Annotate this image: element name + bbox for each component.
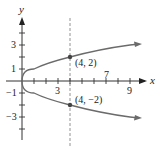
y-tick-label-3: 3 [11, 39, 16, 50]
x-tick-label-3: 3 [55, 85, 60, 96]
point-4-neg2 [68, 103, 72, 107]
y-axis-arrow-icon [19, 17, 25, 25]
point-lower-label: (4, −2) [75, 94, 102, 106]
y-tick-label-1: 1 [11, 63, 16, 74]
x-axis-label: x [149, 74, 155, 86]
x-axis-arrow-icon [139, 78, 147, 84]
y-tick-label-neg3: −3 [6, 111, 17, 122]
x-tick-label-9: 9 [127, 85, 132, 96]
x-tick-label-7: 7 [104, 69, 109, 80]
point-4-2 [68, 55, 72, 59]
upper-curve-arrow-icon [134, 42, 142, 48]
y-tick-label-neg1: −1 [6, 87, 17, 98]
y-axis-label: y [18, 3, 24, 15]
lower-curve-arrow-icon [134, 115, 142, 121]
point-upper-label: (4, 2) [75, 57, 97, 69]
parabola-chart: (4, 2) (4, −2) 3 7 9 3 1 −1 −3 x y [0, 0, 162, 146]
